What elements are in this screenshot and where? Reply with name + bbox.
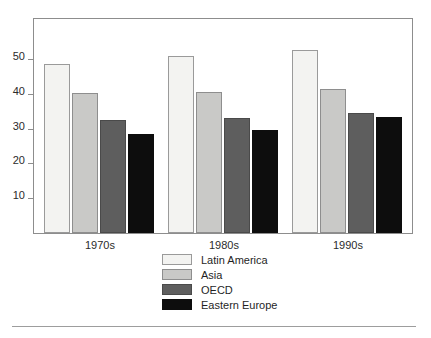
legend-swatch-asia — [162, 269, 192, 280]
chart-figure: 5040302010 Latin AmericaAsiaOECDEastern … — [0, 0, 431, 338]
chart-legend: Latin AmericaAsiaOECDEastern Europe — [162, 252, 332, 312]
legend-swatch-latin-america — [162, 254, 192, 265]
x-axis-label-1970s: 1970s — [44, 239, 156, 251]
legend-label-oecd: OECD — [201, 284, 233, 296]
bar-eastern-europe-1970s — [128, 134, 154, 233]
bar-asia-1980s — [196, 92, 222, 233]
legend-label-latin-america: Latin America — [201, 254, 268, 266]
bar-group-1980s — [168, 19, 280, 233]
y-axis-tick-40: 40 — [0, 94, 34, 95]
legend-swatch-oecd — [162, 284, 192, 295]
legend-item-eastern-europe[interactable]: Eastern Europe — [162, 297, 332, 312]
bar-asia-1970s — [72, 93, 98, 233]
y-axis-tick-50: 50 — [0, 59, 34, 60]
bar-latin-america-1990s — [292, 50, 318, 233]
legend-label-eastern-europe: Eastern Europe — [201, 299, 277, 311]
y-axis: 5040302010 — [0, 0, 34, 338]
legend-item-latin-america[interactable]: Latin America — [162, 252, 332, 267]
y-axis-tick-10: 10 — [0, 198, 34, 199]
y-tick-label: 10 — [13, 190, 25, 201]
x-axis-label-1980s: 1980s — [168, 239, 280, 251]
y-tick-label: 40 — [13, 86, 25, 97]
bar-oecd-1990s — [348, 113, 374, 233]
bar-eastern-europe-1980s — [252, 130, 278, 233]
bar-latin-america-1980s — [168, 56, 194, 233]
plot-area — [34, 19, 412, 233]
bottom-divider — [12, 326, 416, 327]
bar-asia-1990s — [320, 89, 346, 233]
y-tick-label: 20 — [13, 155, 25, 166]
bar-oecd-1980s — [224, 118, 250, 233]
legend-item-oecd[interactable]: OECD — [162, 282, 332, 297]
bar-oecd-1970s — [100, 120, 126, 233]
bar-group-1970s — [44, 19, 156, 233]
bar-group-1990s — [292, 19, 404, 233]
y-tick-label: 30 — [13, 121, 25, 132]
legend-label-asia: Asia — [201, 269, 222, 281]
bar-eastern-europe-1990s — [376, 117, 402, 233]
legend-item-asia[interactable]: Asia — [162, 267, 332, 282]
bar-latin-america-1970s — [44, 64, 70, 233]
y-tick-label: 50 — [13, 51, 25, 62]
y-axis-tick-30: 30 — [0, 129, 34, 130]
x-axis-label-1990s: 1990s — [292, 239, 404, 251]
legend-swatch-eastern-europe — [162, 299, 192, 310]
y-axis-tick-20: 20 — [0, 163, 34, 164]
